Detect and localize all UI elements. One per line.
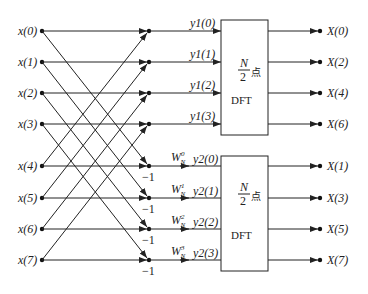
svg-text:2: 2 <box>240 70 246 84</box>
input-label: x(4) <box>17 159 37 173</box>
output-label: X(7) <box>326 253 348 267</box>
input-label: x(1) <box>17 55 37 69</box>
middle-nodes <box>147 29 151 262</box>
twiddle-factor: W1N <box>171 182 186 198</box>
input-label: x(0) <box>17 24 37 38</box>
output-labels: X(0) X(2) X(4) X(6) X(1) X(3) X(5) X(7) <box>326 24 348 267</box>
svg-text:点: 点 <box>251 191 261 202</box>
output-label: X(4) <box>326 86 348 100</box>
output-label: X(1) <box>326 159 348 173</box>
input-label: x(5) <box>17 191 37 205</box>
svg-text:N: N <box>239 56 249 70</box>
output-label: X(6) <box>326 117 348 131</box>
output-label: X(5) <box>326 222 348 236</box>
output-lines <box>268 31 318 260</box>
output-label: X(2) <box>326 55 348 69</box>
y2-label: y2(2) <box>192 215 218 229</box>
y1-label: y1(0) <box>189 16 215 30</box>
input-label: x(7) <box>17 253 37 267</box>
butterfly-cross-up <box>42 33 147 260</box>
fft-butterfly-diagram: x(0) x(1) x(2) x(3) x(4) x(5) x(6) x(7) <box>0 0 368 294</box>
twiddle-factor: W3N <box>171 244 186 260</box>
svg-text:点: 点 <box>251 67 261 78</box>
output-label: X(3) <box>326 191 348 205</box>
dft-box-bottom: N 2 点 DFT <box>221 156 268 271</box>
minus-one-label: −1 <box>142 264 155 278</box>
minus-one-label: −1 <box>142 202 155 216</box>
y1-labels: y1(0) y1(1) y1(2) y1(3) <box>189 16 215 123</box>
y2-label: y2(0) <box>192 152 218 166</box>
output-label: X(0) <box>326 24 348 38</box>
svg-text:DFT: DFT <box>231 229 252 241</box>
input-label: x(2) <box>17 86 37 100</box>
y2-labels: y2(0) y2(1) y2(2) y2(3) <box>192 152 218 260</box>
minus-one-label: −1 <box>142 233 155 247</box>
input-label: x(3) <box>17 117 37 131</box>
output-nodes <box>318 29 322 262</box>
twiddle-factor: W2N <box>171 213 186 229</box>
y1-label: y1(3) <box>189 109 215 123</box>
input-labels: x(0) x(1) x(2) x(3) x(4) x(5) x(6) x(7) <box>17 24 37 267</box>
minus-one-label: −1 <box>142 170 155 184</box>
dft-box-top: N 2 点 DFT <box>221 20 268 135</box>
butterfly-cross-down <box>42 31 147 258</box>
input-label: x(6) <box>17 222 37 236</box>
svg-text:DFT: DFT <box>231 94 252 106</box>
y1-label: y1(1) <box>189 47 215 61</box>
y1-label: y1(2) <box>189 78 215 92</box>
y2-label: y2(1) <box>192 184 218 198</box>
svg-text:2: 2 <box>240 194 246 208</box>
y2-label: y2(3) <box>192 246 218 260</box>
svg-text:N: N <box>239 180 249 194</box>
twiddle-factor: W0N <box>171 150 186 166</box>
